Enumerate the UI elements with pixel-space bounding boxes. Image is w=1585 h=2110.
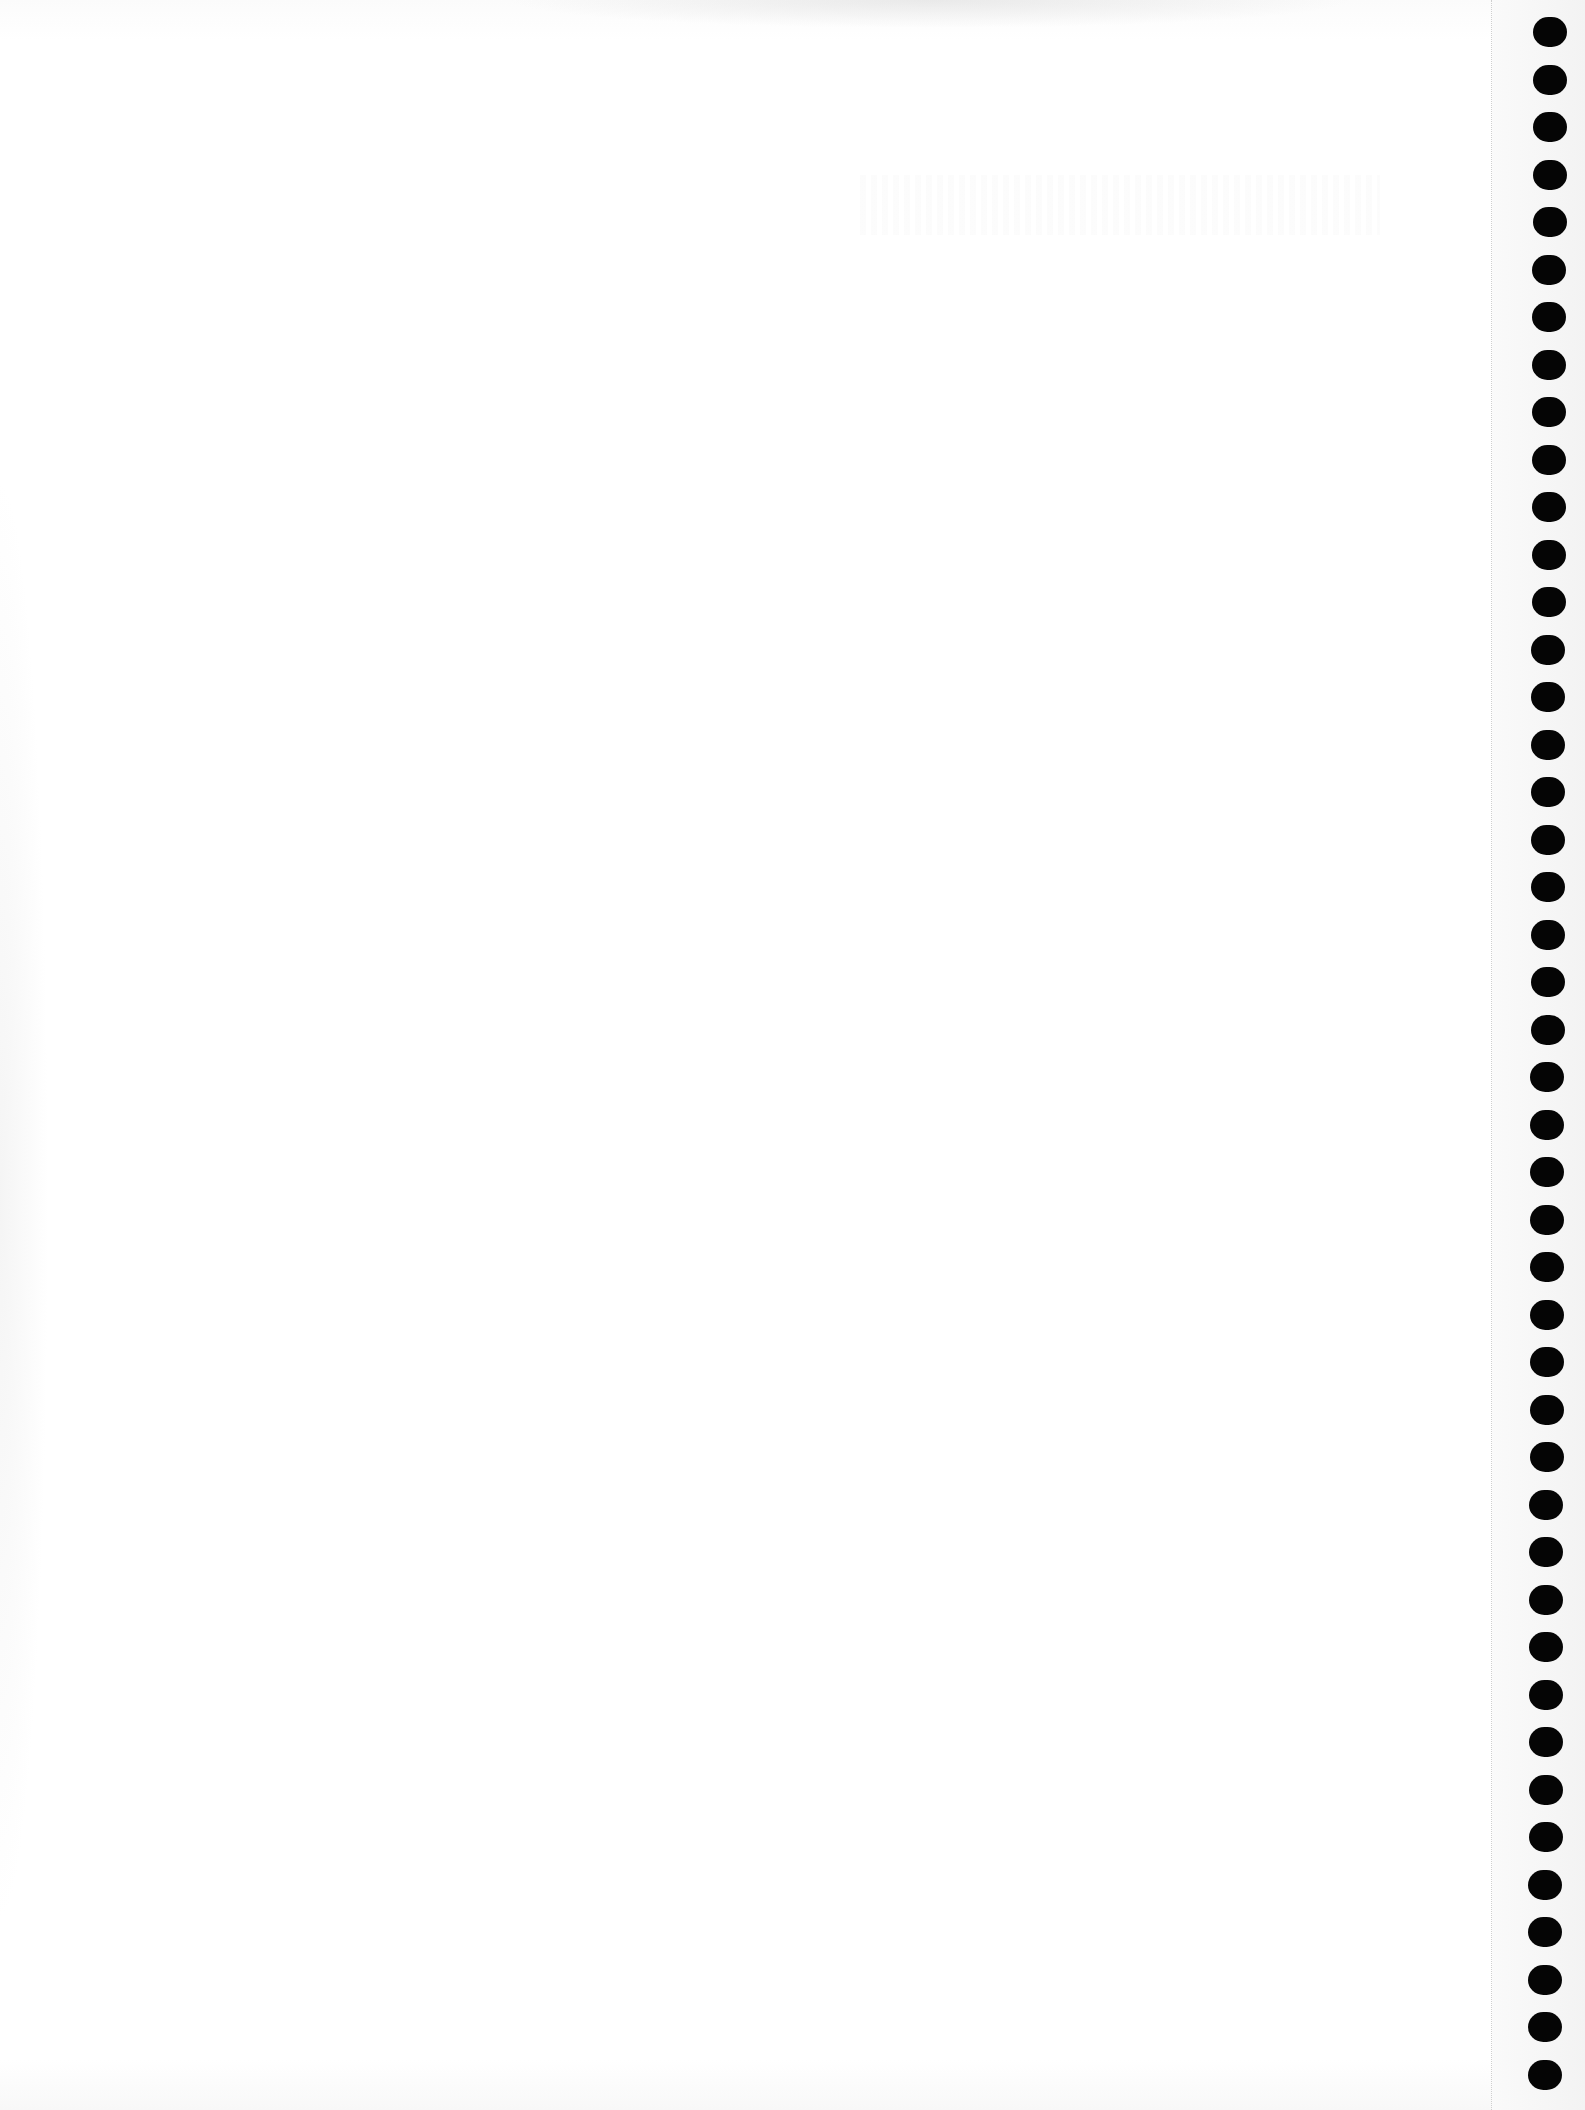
binding-hole [1531,872,1565,902]
binding-hole [1530,1157,1564,1187]
binding-hole [1532,350,1566,380]
binding-hole [1529,1490,1563,1520]
binding-hole [1529,1632,1563,1662]
binding-hole [1532,445,1566,475]
binding-hole [1530,1442,1564,1472]
binding-hole [1531,635,1565,665]
binding-hole [1533,112,1567,142]
binding-hole [1533,160,1567,190]
binding-hole [1532,587,1566,617]
binding-hole [1531,825,1565,855]
binding-hole [1528,2012,1562,2042]
binding-hole [1532,492,1566,522]
binding-hole [1531,920,1565,950]
binding-hole [1533,207,1567,237]
binding-hole [1529,1585,1563,1615]
binding-hole [1530,1395,1564,1425]
binding-hole [1532,540,1566,570]
binding-hole [1529,1775,1563,1805]
binding-hole [1528,1870,1562,1900]
binding-hole [1530,1252,1564,1282]
binding-hole [1532,302,1566,332]
binding-hole [1531,777,1565,807]
binding-hole [1530,1062,1564,1092]
binding-hole [1533,17,1567,47]
binding-hole [1529,1822,1563,1852]
binding-hole [1528,1917,1562,1947]
binding-hole [1532,397,1566,427]
binding-hole [1528,2060,1562,2090]
binding-hole [1529,1727,1563,1757]
binding-hole [1531,730,1565,760]
binding-hole [1531,682,1565,712]
spiral-binding-holes [0,0,1585,2110]
binding-hole [1530,1347,1564,1377]
binding-hole [1531,1015,1565,1045]
binding-hole [1533,65,1567,95]
binding-hole [1528,1965,1562,1995]
binding-hole [1530,1205,1564,1235]
binding-hole [1530,1300,1564,1330]
notebook-page [0,0,1585,2110]
binding-hole [1529,1537,1563,1567]
binding-hole [1532,255,1566,285]
binding-hole [1531,967,1565,997]
binding-hole [1530,1110,1564,1140]
binding-hole [1529,1680,1563,1710]
